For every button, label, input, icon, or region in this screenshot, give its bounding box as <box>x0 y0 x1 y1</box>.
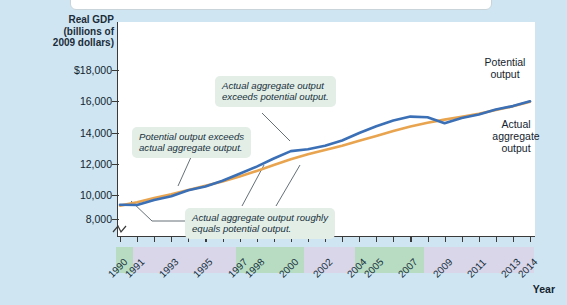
series-label-potential-line-1: Potential <box>470 56 540 68</box>
x-tick-2014 <box>530 236 531 242</box>
x-tick-2010 <box>462 236 463 242</box>
callout-roughly-equals-line-1: Actual aggregate output roughly <box>192 212 328 223</box>
figure-root: Real GDP (billions of 2009 dollars) $18,… <box>0 0 567 305</box>
callout-potential-exceeds-line-1: Potential output exceeds <box>139 131 244 142</box>
x-tick-2004 <box>359 236 360 242</box>
x-axis-title: Year <box>533 283 555 295</box>
callout-potential-exceeds-line-2: actual aggregate output. <box>139 142 244 153</box>
callout-roughly-equals-line-2: equals potential output. <box>192 223 328 234</box>
y-axis-title-line-2: (billions of <box>30 26 114 38</box>
y-axis-title-line-1: Real GDP <box>30 14 114 26</box>
x-tick-1992 <box>154 236 155 242</box>
y-tick-mark-10000 <box>112 195 119 196</box>
series-label-potential-line-2: output <box>470 68 540 80</box>
x-tick-2008 <box>428 236 429 242</box>
y-tick-label-12000: 12,000 <box>38 158 112 170</box>
y-tick-mark-8000 <box>112 219 119 220</box>
x-tick-2007 <box>410 236 411 242</box>
x-tick-2005 <box>376 236 377 242</box>
x-tick-1990 <box>120 236 121 242</box>
y-tick-mark-12000 <box>112 164 119 165</box>
y-tick-mark-14000 <box>112 133 119 134</box>
series-label-actual-output: Actual aggregate output <box>478 118 554 154</box>
series-label-potential-output: Potential output <box>470 56 540 80</box>
y-tick-label-18000: $18,000 <box>38 64 112 76</box>
caption-box-partial <box>70 0 492 10</box>
x-tick-2006 <box>393 236 394 242</box>
x-tick-2003 <box>342 236 343 242</box>
callout-actual-exceeds-line-1: Actual aggregate output <box>222 80 329 91</box>
callout-roughly-equals: Actual aggregate output roughly equals p… <box>185 208 335 239</box>
series-label-actual-line-3: output <box>478 142 554 154</box>
y-tick-mark-16000 <box>112 101 119 102</box>
y-axis-line <box>117 22 118 236</box>
x-tick-2012 <box>496 236 497 242</box>
x-tick-2009 <box>445 236 446 242</box>
x-tick-1993 <box>171 236 172 242</box>
x-tick-2011 <box>479 236 480 242</box>
y-tick-label-10000: 10,000 <box>38 189 112 201</box>
x-tick-1991 <box>137 236 138 242</box>
y-axis-title-line-3: 2009 dollars) <box>30 37 114 49</box>
series-label-actual-line-1: Actual <box>478 118 554 130</box>
callout-potential-exceeds: Potential output exceeds actual aggregat… <box>132 127 251 158</box>
callout-actual-exceeds-line-2: exceeds potential output. <box>222 91 329 102</box>
series-label-actual-line-2: aggregate <box>478 130 554 142</box>
x-tick-2013 <box>513 236 514 242</box>
y-tick-label-8000: 8,000 <box>38 213 112 225</box>
y-tick-label-16000: 16,000 <box>38 95 112 107</box>
y-axis-title: Real GDP (billions of 2009 dollars) <box>30 14 114 49</box>
y-tick-mark-18000 <box>112 70 119 71</box>
y-tick-label-14000: 14,000 <box>38 127 112 139</box>
callout-actual-exceeds: Actual aggregate output exceeds potentia… <box>215 76 336 107</box>
